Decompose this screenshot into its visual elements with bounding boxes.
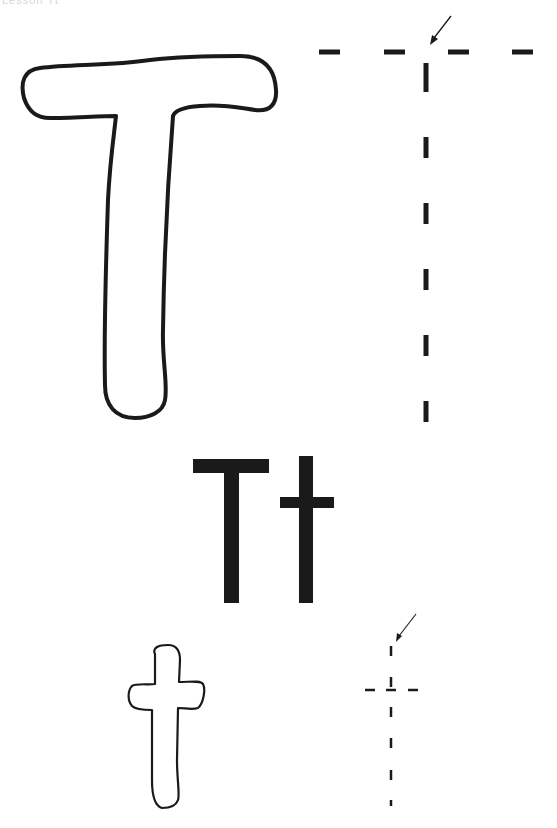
printed-lowercase-t	[280, 456, 334, 603]
lowercase-start-arrow-icon	[396, 614, 416, 642]
uppercase-t-outline	[23, 56, 277, 418]
start-arrow-icon	[430, 16, 451, 45]
uppercase-t-trace-guide	[319, 52, 533, 422]
lowercase-t-outline	[129, 645, 205, 808]
printed-uppercase-t	[193, 459, 269, 603]
worksheet-canvas	[0, 0, 557, 828]
lowercase-t-trace-guide	[365, 646, 418, 806]
